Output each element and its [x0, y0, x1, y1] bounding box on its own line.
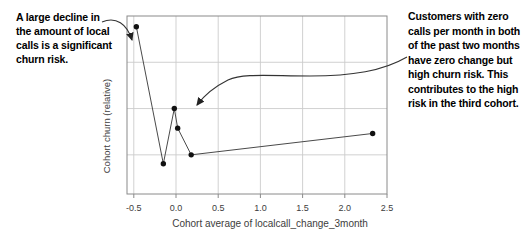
x-tick-label: 1.5 — [296, 203, 309, 213]
x-tick-label: -0.5 — [126, 203, 142, 213]
curved-arrow-right-note — [197, 57, 407, 105]
churn-line — [136, 27, 372, 164]
x-tick-label: 0.5 — [212, 203, 225, 213]
x-axis-label: Cohort average of localcall_change_3mont… — [172, 218, 368, 229]
x-tick-label: 1.0 — [254, 203, 267, 213]
data-point — [161, 161, 166, 166]
churn-chart-figure: -0.50.00.51.01.52.02.5 Cohort average of… — [0, 0, 530, 242]
data-point — [172, 106, 177, 111]
grid-lines — [127, 16, 387, 194]
x-tick-label: 0.0 — [170, 203, 183, 213]
annotation-local-call-decline: A large decline in the amount of local c… — [16, 10, 136, 66]
axis-tick-marks — [134, 194, 387, 198]
x-tick-label: 2.0 — [339, 203, 352, 213]
data-point — [188, 152, 193, 157]
annotation-zero-calls-cohort: Customers with zero calls per month in b… — [408, 9, 530, 111]
x-tick-label: 2.5 — [381, 203, 394, 213]
y-axis-label: Cohort churn (relative) — [101, 79, 112, 174]
data-point — [370, 131, 375, 136]
axis-tick-labels: -0.50.00.51.01.52.02.5 — [126, 203, 393, 213]
data-point — [175, 125, 180, 130]
plot-frame — [127, 16, 387, 194]
data-series — [134, 24, 376, 166]
